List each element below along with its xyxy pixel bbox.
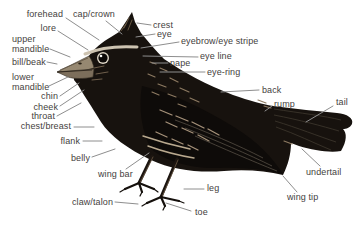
label-cap-crown: cap/crown bbox=[73, 10, 115, 19]
label-claw-talon: claw/talon bbox=[72, 198, 113, 207]
label-tail: tail bbox=[336, 98, 348, 107]
bird-anatomy-diagram: forehead cap/crown lore upper mandible b… bbox=[0, 0, 362, 227]
label-eye: eye bbox=[157, 30, 172, 39]
label-chest-breast: chest/breast bbox=[21, 122, 71, 131]
label-belly: belly bbox=[71, 154, 90, 163]
label-wing-bar: wing bar bbox=[98, 170, 133, 179]
label-flank: flank bbox=[60, 137, 80, 146]
label-eyebrow-eye-stripe: eyebrow/eye stripe bbox=[181, 37, 258, 46]
label-rump: rump bbox=[274, 100, 295, 109]
label-nape: nape bbox=[170, 59, 190, 68]
label-undertail: undertail bbox=[306, 168, 341, 177]
label-lore: lore bbox=[41, 24, 56, 33]
labels-layer: forehead cap/crown lore upper mandible b… bbox=[0, 0, 362, 227]
label-toe: toe bbox=[195, 208, 208, 217]
label-chin: chin bbox=[41, 92, 58, 101]
label-throat: throat bbox=[31, 112, 55, 121]
label-wing-tip: wing tip bbox=[287, 193, 318, 202]
label-forehead: forehead bbox=[27, 10, 63, 19]
label-bill-beak: bill/beak bbox=[12, 58, 46, 67]
label-leg: leg bbox=[207, 184, 219, 193]
label-back: back bbox=[262, 86, 281, 95]
label-upper-mandible: upper mandible bbox=[12, 34, 54, 54]
label-lower-mandible: lower mandible bbox=[12, 72, 54, 92]
label-eye-line: eye line bbox=[200, 52, 232, 61]
label-eye-ring: eye-ring bbox=[207, 68, 240, 77]
